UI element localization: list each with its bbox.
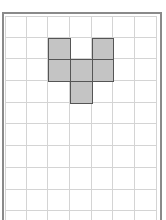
shaded-cell [70,81,93,104]
grid-cell [113,211,135,220]
grid-cell [27,81,49,103]
grid-cell [113,59,135,81]
grid-cell [113,146,135,168]
grid-cell [135,59,157,81]
grid-cell [135,190,157,212]
grid-cell [27,211,49,220]
grid-cell [48,16,70,38]
grid-cell [27,124,49,146]
grid-cell [92,124,114,146]
grid-cell [5,103,27,125]
grid-cell [48,211,70,220]
grid-cell [5,190,27,212]
shaded-cell [48,38,71,61]
grid-cell [92,81,114,103]
grid-cell [113,190,135,212]
grid-cell [70,211,92,220]
grid-cell [70,168,92,190]
grid-cell [5,38,27,60]
grid-cell [5,211,27,220]
grid-cell [135,146,157,168]
grid-cell [27,59,49,81]
grid-cell [70,146,92,168]
shaded-cell [70,59,93,82]
grid-cell [135,103,157,125]
grid-cell [5,124,27,146]
grid-cell [135,38,157,60]
grid-cell [27,168,49,190]
grid-cell [48,124,70,146]
shaded-cell [92,38,115,61]
grid-cell [113,168,135,190]
grid-cell [135,211,157,220]
grid-cell [92,103,114,125]
grid-cell [92,211,114,220]
grid-cell [70,103,92,125]
grid-cell [27,190,49,212]
shaded-cell [92,59,115,82]
grid-cell [70,190,92,212]
grid-cell [135,168,157,190]
square-grid [5,16,157,220]
grid-cell [5,59,27,81]
grid-cell [92,16,114,38]
grid-cell [92,168,114,190]
grid-cell [70,124,92,146]
grid-cell [48,81,70,103]
grid-cell [113,124,135,146]
grid-cell [70,38,92,60]
grid-cell [48,103,70,125]
grid-cell [135,81,157,103]
grid-cell [48,190,70,212]
grid-cell [113,81,135,103]
grid-cell [27,103,49,125]
grid-cell [27,38,49,60]
grid-cell [113,16,135,38]
grid-cell [92,146,114,168]
grid-cell [92,190,114,212]
shaded-cell [48,59,71,82]
grid-cell [113,103,135,125]
grid-cell [70,16,92,38]
grid-cell [48,146,70,168]
grid-cell [113,38,135,60]
grid-cell [48,168,70,190]
grid-cell [27,146,49,168]
grid-cell [135,16,157,38]
grid-cell [27,16,49,38]
grid-cell [135,124,157,146]
grid-cell [5,16,27,38]
grid-cell [5,168,27,190]
grid-cell [5,81,27,103]
grid-cell [5,146,27,168]
